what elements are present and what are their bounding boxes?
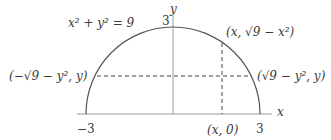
x-max-label: 3	[256, 123, 264, 135]
point-left-label: (−√9 − y², y)	[9, 70, 87, 82]
point-top-label: (x, √9 − x²)	[226, 26, 294, 38]
equation-label: x² + y² = 9	[68, 17, 134, 29]
x-min-label: −3	[77, 123, 95, 135]
semicircle-diagram: x² + y² = 9 3 y (x, √9 − x²) (−√9 − y², …	[0, 0, 331, 140]
x-axis-label: x	[277, 106, 284, 118]
point-axis-label: (x, 0)	[207, 124, 238, 136]
y-intercept-label: 3	[162, 15, 170, 27]
point-right-label: (√9 − y², y)	[257, 70, 325, 82]
y-axis-label: y	[170, 3, 177, 15]
